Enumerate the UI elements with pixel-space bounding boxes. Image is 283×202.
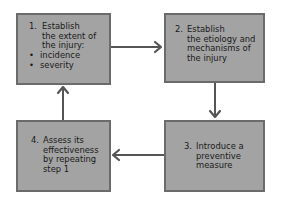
step-4-box: 4. Assess its effectiveness by repeating… <box>16 120 111 192</box>
step-4-line: step 1 <box>43 165 99 175</box>
step-3-box: 3. Introduce a preventive measure <box>164 120 265 192</box>
step-1-box: 1. Establish the extent of the injury: i… <box>16 13 111 85</box>
step-3-number: 3. <box>184 142 192 152</box>
step-2-box: 2. Establish the etiology and mechanisms… <box>164 13 265 83</box>
step-2-number: 2. <box>175 25 183 35</box>
step-1-number: 1. <box>29 22 37 32</box>
step-4-number: 4. <box>31 136 39 146</box>
step-2-line: the injury <box>187 54 255 64</box>
bullet-severity: severity <box>29 61 80 71</box>
step-3-line: measure <box>196 161 244 171</box>
step-1-bullet-list: incidence severity <box>29 51 80 70</box>
